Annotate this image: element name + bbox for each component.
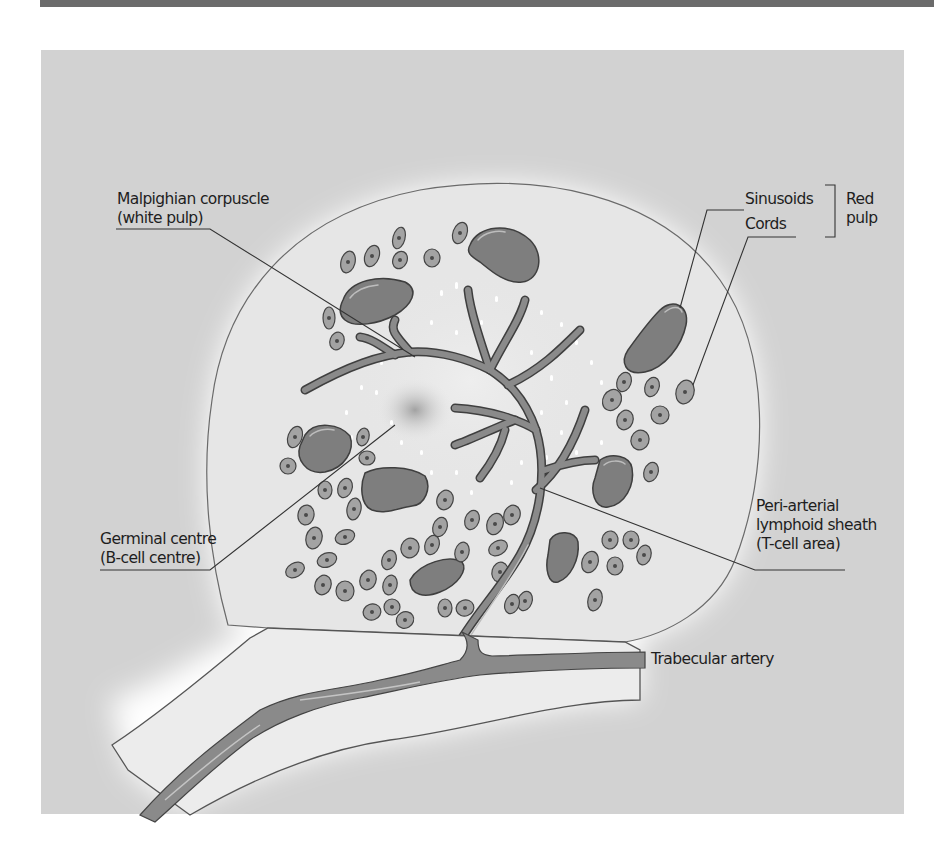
label-trabecular-artery: Trabecular artery <box>651 650 774 669</box>
label-red-pulp: Red pulp <box>846 190 877 228</box>
spleen-diagram <box>0 0 934 842</box>
label-germinal-centre: Germinal centre (B-cell centre) <box>100 530 216 568</box>
label-malpighian-corpuscle: Malpighian corpuscle (white pulp) <box>117 190 269 228</box>
label-peri-arterial-lymphoid-sheath: Peri-arterial lymphoid sheath (T-cell ar… <box>756 497 877 554</box>
germinal-centre-shade <box>377 378 453 442</box>
label-sinusoids: Sinusoids <box>745 190 813 209</box>
label-cords: Cords <box>745 215 786 234</box>
red-pulp-bracket <box>825 185 835 237</box>
